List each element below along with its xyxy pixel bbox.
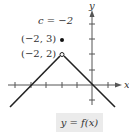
open-point-label: (−2, 2): [21, 49, 56, 59]
parameter-label: c = −2: [38, 16, 73, 26]
filled-point-icon: [60, 38, 64, 42]
open-point-icon: [60, 53, 64, 57]
filled-point-label: (−2, 3): [21, 34, 56, 44]
x-axis-label: x: [124, 80, 129, 90]
function-label: y = f(x): [56, 117, 103, 128]
y-axis-arrow-icon: [90, 10, 95, 17]
piecewise-function-figure: y x c = −2 (−2, 3) (−2, 2) y = f(x): [0, 0, 129, 140]
left-branch-line: [10, 56, 60, 107]
y-axis-label: y: [89, 1, 95, 11]
right-branch-line: [64, 56, 115, 107]
x-axis-arrow-icon: [115, 83, 122, 88]
